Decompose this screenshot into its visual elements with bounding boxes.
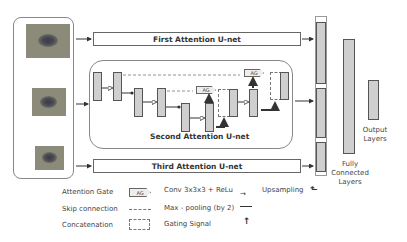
legend-maxpool-label: Max - pooling (by 2) bbox=[164, 204, 234, 212]
legend-upsampling-icon: ⬑ bbox=[310, 184, 318, 194]
legend-gating-label: Gating Signal bbox=[164, 220, 211, 228]
legend-conv-icon: → bbox=[240, 190, 246, 198]
legend-attention-gate-label: Attention Gate bbox=[62, 188, 113, 196]
legend-gating-icon: ↑ bbox=[243, 216, 251, 226]
legend-conv-label: Conv 3x3x3 + ReLu bbox=[164, 186, 233, 194]
legend-skip-connection-label: Skip connection bbox=[62, 205, 118, 213]
legend-maxpool-icon bbox=[240, 206, 252, 207]
legend-upsampling-label: Upsampling bbox=[262, 186, 304, 194]
legend-skip-connection-icon bbox=[129, 209, 151, 210]
legend-concatenation-icon bbox=[129, 219, 150, 230]
legend-concatenation-label: Concatenation bbox=[62, 221, 113, 229]
